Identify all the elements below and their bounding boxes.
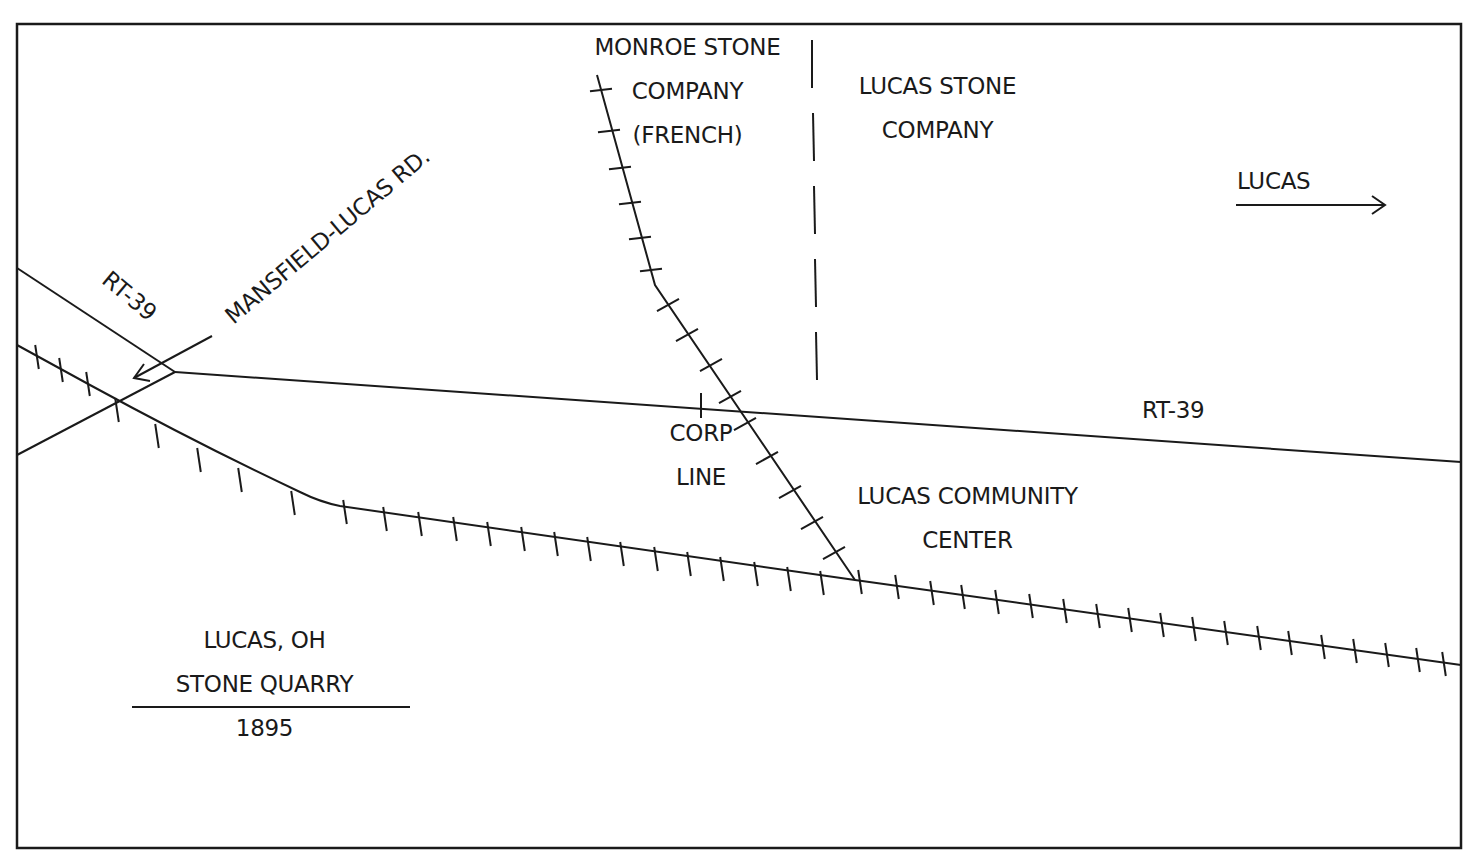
community-line-1: LUCAS COMMUNITY bbox=[835, 474, 1100, 518]
corp-line-2: LINE bbox=[650, 455, 752, 499]
corp-line-label: CORP LINE bbox=[650, 411, 752, 499]
lucas-direction-arrow-icon bbox=[1236, 196, 1385, 214]
lucas-stone-line-1: LUCAS STONE bbox=[820, 64, 1055, 108]
monroe-line-3: (FRENCH) bbox=[560, 113, 815, 157]
lucas-direction-label: LUCAS bbox=[1237, 170, 1310, 193]
title-block: LUCAS, OH STONE QUARRY 1895 bbox=[132, 618, 397, 750]
lucas-stone-company-label: LUCAS STONE COMPANY bbox=[820, 64, 1055, 152]
monroe-line-2: COMPANY bbox=[560, 69, 815, 113]
monroe-stone-company-label: MONROE STONE COMPANY (FRENCH) bbox=[560, 25, 815, 157]
title-line-1: LUCAS, OH bbox=[132, 618, 397, 662]
title-year: 1895 bbox=[132, 706, 397, 750]
lucas-community-center-label: LUCAS COMMUNITY CENTER bbox=[835, 474, 1100, 562]
monroe-line-1: MONROE STONE bbox=[560, 25, 815, 69]
rt-39-right-label: RT-39 bbox=[1142, 399, 1204, 422]
community-line-2: CENTER bbox=[835, 518, 1100, 562]
title-line-2: STONE QUARRY bbox=[132, 662, 397, 706]
lucas-stone-line-2: COMPANY bbox=[820, 108, 1055, 152]
corp-line-1: CORP bbox=[650, 411, 752, 455]
